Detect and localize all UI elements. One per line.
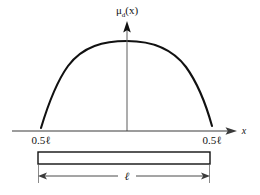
vertical-axis-label: μd(x) bbox=[116, 4, 139, 19]
tick-label-right: 0.5ℓ bbox=[202, 134, 221, 146]
beam-section bbox=[38, 152, 210, 164]
horizontal-axis-label: x bbox=[241, 125, 247, 136]
dimension-label: ℓ bbox=[125, 170, 130, 182]
figure-container: μd(x) x 0.5ℓ 0.5ℓ ℓ bbox=[0, 0, 260, 195]
tick-label-left: 0.5ℓ bbox=[31, 134, 50, 146]
beam-mode-shape-figure: μd(x) x 0.5ℓ 0.5ℓ ℓ bbox=[0, 0, 260, 195]
vertical-axis-label-argument: (x) bbox=[125, 4, 138, 17]
